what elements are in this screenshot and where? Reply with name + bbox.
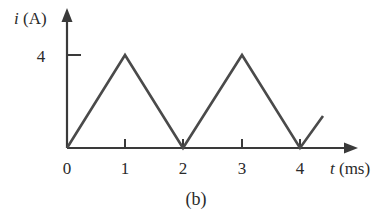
y-tick-label-4: 4 <box>37 47 46 66</box>
x-axis-label: t (ms) <box>330 159 370 178</box>
current-waveform-line <box>67 55 323 148</box>
y-axis-arrow-icon <box>62 8 73 22</box>
x-axis-arrow-icon <box>344 143 358 154</box>
x-tick-label-1: 1 <box>121 159 130 178</box>
figure-caption: (b) <box>186 189 207 210</box>
x-tick-label-4: 4 <box>296 159 305 178</box>
waveform-plot: i (A) 4 0 1 2 3 4 t (ms) (b) <box>0 0 390 214</box>
x-tick-label-3: 3 <box>238 159 247 178</box>
x-tick-label-0: 0 <box>63 159 72 178</box>
y-axis-label: i (A) <box>14 9 47 28</box>
x-tick-label-2: 2 <box>179 159 188 178</box>
waveform-figure: i (A) 4 0 1 2 3 4 t (ms) (b) <box>0 0 390 214</box>
